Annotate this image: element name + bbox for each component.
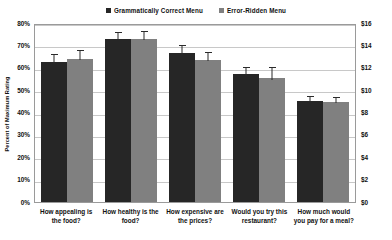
- legend-item-grammatically-correct-menu: Grammatically Correct Menu: [106, 8, 203, 14]
- bar[interactable]: [195, 60, 221, 202]
- error-bar: [336, 97, 337, 104]
- error-bar: [118, 32, 119, 40]
- bar-slot: [195, 25, 221, 202]
- error-bar-cap-top: [269, 67, 276, 68]
- y-axis-left-tick-label: 30%: [17, 132, 30, 138]
- bars-layer: [35, 25, 355, 202]
- legend-item-error-ridden-menu: Error-Ridden Menu: [219, 8, 286, 14]
- y-axis-left-tick-label: 80%: [17, 21, 30, 27]
- chart-legend: Grammatically Correct Menu Error-Ridden …: [0, 5, 392, 17]
- x-axis-category-label: How appealing is the food?: [34, 207, 98, 237]
- error-bar-cap-top: [141, 31, 148, 32]
- y-axis-right-tick-label: $6: [361, 132, 368, 138]
- error-bar: [54, 54, 55, 63]
- y-axis-right-tick-label: $14: [361, 43, 372, 49]
- bar-group: [35, 25, 99, 202]
- bar[interactable]: [323, 102, 349, 202]
- y-axis-left-tick-label: 50%: [17, 88, 30, 94]
- error-bar: [144, 31, 145, 40]
- y-axis-left-tick-label: 10%: [17, 177, 30, 183]
- error-bar: [182, 45, 183, 54]
- y-axis-left-tick-label: 70%: [17, 43, 30, 49]
- y-axis-left-tick-label: 40%: [17, 110, 30, 116]
- x-axis-category-labels: How appealing is the food?How healthy is…: [34, 207, 356, 237]
- error-bar: [246, 67, 247, 76]
- error-bar: [310, 96, 311, 103]
- y-axis-right-tick-label: $8: [361, 110, 368, 116]
- y-axis-right-ticks: $0$2$4$6$8$10$12$14$16: [358, 24, 390, 203]
- bar-group: [227, 25, 291, 202]
- error-bar-cap-top: [205, 52, 212, 53]
- bar[interactable]: [259, 78, 285, 202]
- bar-group: [163, 25, 227, 202]
- bar[interactable]: [67, 59, 93, 202]
- y-axis-right-tick-label: $12: [361, 65, 372, 71]
- bar-group: [99, 25, 163, 202]
- error-bar-cap-top: [115, 32, 122, 33]
- error-bar-cap-top: [179, 45, 186, 46]
- error-bar-cap-top: [77, 50, 84, 51]
- x-axis-category-label: How much would you pay for a meal?: [292, 207, 356, 237]
- bar-slot: [297, 25, 323, 202]
- bar-slot: [233, 25, 259, 202]
- bar-slot: [105, 25, 131, 202]
- x-axis-category-label: How healthy is the food?: [98, 207, 162, 237]
- bar[interactable]: [233, 74, 259, 202]
- error-bar-cap-top: [243, 67, 250, 68]
- y-axis-right-tick-label: $16: [361, 21, 372, 27]
- bar[interactable]: [169, 53, 195, 202]
- bar-slot: [67, 25, 93, 202]
- legend-swatch-icon-series-a: [106, 8, 111, 13]
- y-axis-right-tick-label: $4: [361, 155, 368, 161]
- plot-area: [34, 24, 356, 203]
- y-axis-left-tick-label: 0%: [21, 200, 30, 206]
- error-bar: [80, 50, 81, 61]
- y-axis-right-tick-label: $10: [361, 88, 372, 94]
- y-axis-right-tick-label: $2: [361, 177, 368, 183]
- y-axis-left-tick-label: 20%: [17, 155, 30, 161]
- y-axis-left-ticks: 0%10%20%30%40%50%60%70%80%: [2, 24, 32, 203]
- error-bar-cap-top: [333, 97, 340, 98]
- error-bar-cap-top: [307, 96, 314, 97]
- bar-slot: [131, 25, 157, 202]
- bar-slot: [169, 25, 195, 202]
- bar-group: [291, 25, 355, 202]
- legend-label-series-b: Error-Ridden Menu: [227, 8, 286, 14]
- error-bar-cap-top: [51, 54, 58, 55]
- bar[interactable]: [297, 101, 323, 202]
- x-axis-category-label: Would you try this restaurant?: [227, 207, 291, 237]
- legend-label-series-a: Grammatically Correct Menu: [114, 8, 203, 14]
- bar-slot: [323, 25, 349, 202]
- bar-chart: Grammatically Correct Menu Error-Ridden …: [0, 0, 392, 240]
- bar[interactable]: [41, 62, 67, 202]
- bar-slot: [259, 25, 285, 202]
- bar[interactable]: [131, 39, 157, 202]
- legend-swatch-icon-series-b: [219, 8, 224, 13]
- y-axis-left-tick-label: 60%: [17, 65, 30, 71]
- bar[interactable]: [105, 39, 131, 202]
- error-bar: [272, 67, 273, 80]
- x-axis-category-label: How expensive are the prices?: [163, 207, 227, 237]
- bar-slot: [41, 25, 67, 202]
- y-axis-right-tick-label: $0: [361, 200, 368, 206]
- error-bar: [208, 52, 209, 61]
